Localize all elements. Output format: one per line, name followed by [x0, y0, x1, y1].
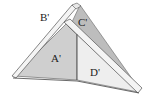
label-d: D': [90, 67, 100, 78]
label-c: C': [78, 17, 87, 28]
label-a: A': [51, 53, 61, 64]
folded-paper-diagram: [0, 0, 151, 98]
label-b: B': [40, 12, 49, 23]
face-a: [14, 24, 77, 80]
